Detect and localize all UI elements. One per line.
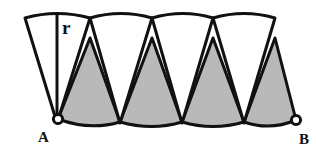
figure-container: r A B xyxy=(0,0,316,154)
point-a-label: A xyxy=(38,129,49,145)
sector-band-diagram: r A B xyxy=(0,0,316,154)
point-b-label: B xyxy=(299,131,309,147)
radius-label: r xyxy=(62,17,71,38)
point-b-marker xyxy=(291,115,300,124)
point-a-marker xyxy=(53,114,62,123)
